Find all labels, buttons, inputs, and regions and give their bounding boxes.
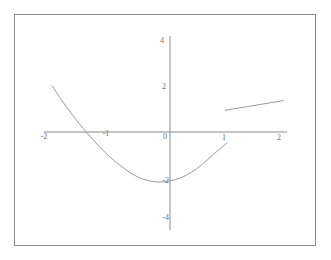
origin-tick-label: 0 — [163, 133, 167, 141]
short-line-segment — [225, 101, 283, 111]
x-tick-label-minus1: -1 — [103, 130, 110, 138]
y-tick-label-minus4: -4 — [162, 214, 169, 222]
parabola-curve — [52, 86, 227, 182]
figure-canvas: -2 -1 0 1 2 4 2 -2 -4 — [0, 0, 331, 260]
x-tick-label-minus2: -2 — [41, 133, 48, 141]
y-tick-label-4: 4 — [160, 37, 164, 45]
x-tick-label-2: 2 — [277, 134, 281, 142]
data-series-group — [52, 86, 283, 182]
y-tick-label-minus2: -2 — [162, 177, 169, 185]
x-tick-label-1: 1 — [222, 134, 226, 142]
y-tick-label-2: 2 — [162, 83, 166, 91]
